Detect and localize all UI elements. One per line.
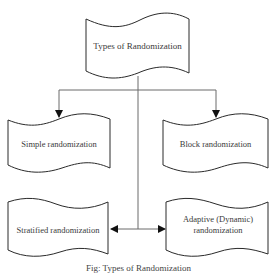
figure-caption: Fig: Types of Randomization (0, 263, 277, 273)
simple-node-label: Simple randomization (8, 136, 110, 152)
block-node-label: Block randomization (163, 136, 268, 152)
diagram-canvas: Types of Randomization Simple randomizat… (0, 0, 277, 276)
title-node-label: Types of Randomization (86, 36, 189, 56)
adaptive-node-label: Adaptive (Dynamic) randomization (176, 212, 260, 238)
stratified-node-label: Stratified randomization (8, 222, 108, 238)
